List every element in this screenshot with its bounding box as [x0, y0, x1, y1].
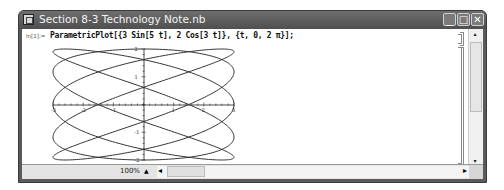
notebook-content[interactable]: In[1]:= ParametricPlot[{3 Sin[5 t], 2 Co… — [22, 29, 483, 179]
resize-grip[interactable] — [469, 165, 483, 179]
mathematica-app-icon — [23, 14, 34, 25]
scroll-right-icon[interactable]: ▸ — [463, 166, 467, 175]
svg-text:-1: -1 — [135, 129, 140, 135]
window-title: Section 8-3 Technology Note.nb — [39, 13, 206, 25]
zoom-level[interactable]: 100% — [120, 167, 140, 175]
vertical-scrollbar[interactable]: ▴ ▾ — [468, 29, 483, 165]
vertical-scroll-thumb[interactable] — [470, 42, 482, 112]
close-button[interactable]: ✕ — [471, 13, 484, 26]
status-bar: 100% ▲ ◂ ▸ — [22, 164, 483, 179]
horizontal-scroll-thumb[interactable] — [167, 166, 205, 177]
svg-text:1: 1 — [135, 74, 138, 80]
title-bar[interactable]: Section 8-3 Technology Note.nb _ □ ✕ — [19, 11, 486, 29]
scroll-up-icon[interactable]: ▴ — [469, 30, 481, 37]
maximize-button[interactable]: □ — [457, 13, 470, 26]
parametric-plot: -3-2-1123-2-112 — [22, 29, 485, 181]
scroll-down-icon[interactable]: ▾ — [469, 157, 481, 164]
horizontal-scrollbar[interactable]: ◂ ▸ — [157, 166, 469, 178]
notebook-window: Section 8-3 Technology Note.nb _ □ ✕ In[… — [18, 10, 487, 183]
zoom-up-icon[interactable]: ▲ — [144, 167, 149, 174]
scroll-left-icon[interactable]: ◂ — [158, 166, 162, 175]
output-group-bracket[interactable] — [460, 47, 464, 166]
minimize-button[interactable]: _ — [443, 13, 456, 26]
group-cell-bracket[interactable] — [460, 32, 464, 46]
